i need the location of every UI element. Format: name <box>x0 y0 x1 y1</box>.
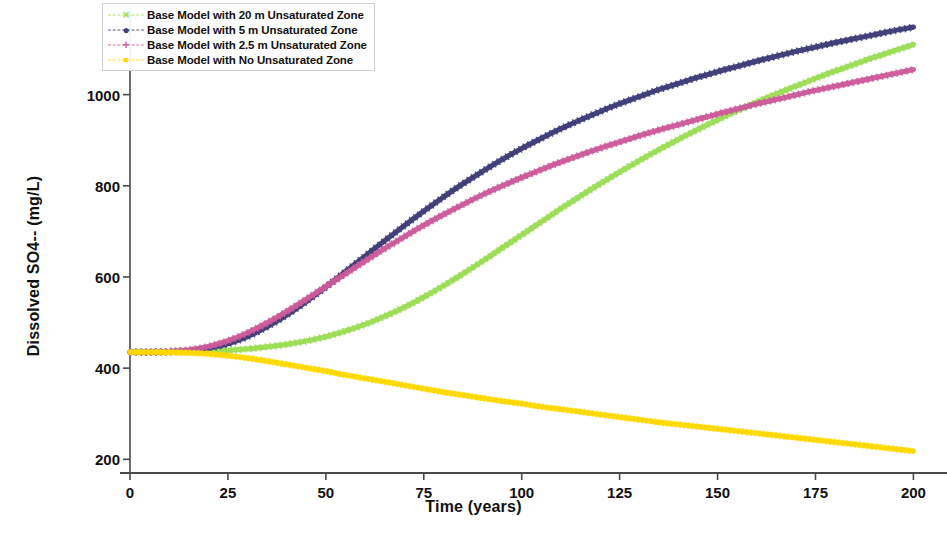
legend-item-label: Base Model with 20 m Unsaturated Zone <box>147 9 364 21</box>
y-tick-label: 1000 <box>40 86 120 103</box>
y-tick-label: 800 <box>40 177 120 194</box>
square-marker: ■ <box>108 53 144 67</box>
y-tick-label: 400 <box>40 360 120 377</box>
legend-item[interactable]: ×Base Model with 20 m Unsaturated Zone <box>108 7 367 22</box>
x-tick-label: 175 <box>803 484 828 501</box>
plus-marker: + <box>108 38 144 52</box>
plot-area <box>0 0 947 533</box>
series-line <box>130 27 913 352</box>
x-tick-label: 50 <box>318 484 335 501</box>
x-tick-label: 0 <box>126 484 134 501</box>
legend-item-label: Base Model with No Unsaturated Zone <box>147 54 353 66</box>
series-line <box>130 70 913 353</box>
x-tick-label: 25 <box>220 484 237 501</box>
x-tick-label: 150 <box>705 484 730 501</box>
series-3 <box>130 352 913 451</box>
legend-marker-glyph: ■ <box>123 55 128 64</box>
legend-item-label: Base Model with 5 m Unsaturated Zone <box>147 24 357 36</box>
series-1 <box>130 27 913 352</box>
series-0 <box>130 44 913 352</box>
x-tick-label: 200 <box>901 484 926 501</box>
series-markers <box>130 70 913 353</box>
y-tick-label: 200 <box>40 451 120 468</box>
legend-marker-glyph: + <box>122 39 129 51</box>
chart-legend: ×Base Model with 20 m Unsaturated Zone●B… <box>102 3 375 71</box>
x-tick-label: 100 <box>509 484 534 501</box>
legend-marker-glyph: ● <box>122 24 129 36</box>
circle-marker: ● <box>108 23 144 37</box>
series-line <box>130 44 913 352</box>
x-tick-label: 75 <box>415 484 432 501</box>
legend-item[interactable]: ●Base Model with 5 m Unsaturated Zone <box>108 22 367 37</box>
x-tick-label: 125 <box>607 484 632 501</box>
y-tick-label: 600 <box>40 268 120 285</box>
x-marker: × <box>108 8 144 22</box>
legend-item[interactable]: ■Base Model with No Unsaturated Zone <box>108 52 367 67</box>
legend-marker-glyph: × <box>122 9 129 21</box>
series-2 <box>130 70 913 353</box>
series-markers <box>130 44 913 352</box>
legend-item[interactable]: +Base Model with 2.5 m Unsaturated Zone <box>108 37 367 52</box>
series-markers <box>130 27 913 352</box>
legend-item-label: Base Model with 2.5 m Unsaturated Zone <box>147 39 367 51</box>
chart-figure: Dissolved SO4-- (mg/L) Time (years) 2004… <box>0 0 947 533</box>
